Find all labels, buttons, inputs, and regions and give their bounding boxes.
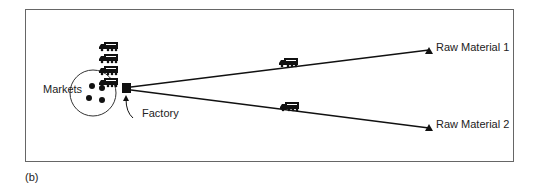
diagram-frame [26,10,514,162]
markets-label: Markets [43,83,83,95]
raw-material-2-label: Raw Material 2 [436,118,509,130]
truck-icon [99,78,118,87]
factory-pointer-arrow [126,99,133,118]
market-dot [99,97,105,103]
figure-caption: (b) [25,171,38,183]
factory-label: Factory [142,107,179,119]
raw-material-1-label: Raw Material 1 [436,41,509,53]
market-dot [89,83,95,89]
truck-icon [99,54,118,63]
truck-icon [99,66,118,75]
truck-icon [99,42,118,51]
truck-icon [279,58,298,67]
truck-icon [280,102,299,111]
market-truck-stack [99,42,118,87]
supply-chain-diagram: Markets Factory Raw Material 1 Raw Mater… [0,0,542,188]
arrowhead-icon [123,95,129,101]
factory-node [122,83,131,93]
market-dot [86,95,92,101]
route-factory-to-raw-material-1 [131,50,429,87]
